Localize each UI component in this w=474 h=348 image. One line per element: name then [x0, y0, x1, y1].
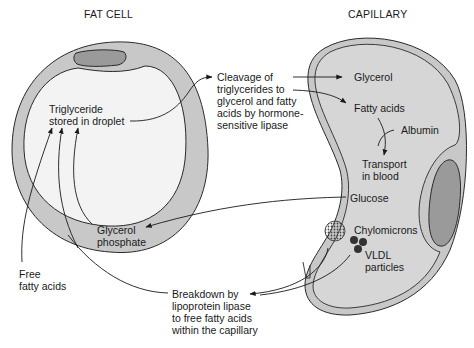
- chylomicrons-label: Chylomicrons: [354, 224, 418, 236]
- glycerol-label: Glycerol: [354, 71, 393, 83]
- cleavage-label: Cleavage of triglycerides to glycerol an…: [217, 71, 303, 131]
- albumin-label: Albumin: [401, 124, 439, 136]
- fat-cell-title: FAT CELL: [84, 8, 133, 20]
- transport-label: Transport in blood: [362, 158, 407, 182]
- breakdown-label: Breakdown by lipoprotein lipase to free …: [172, 288, 258, 336]
- free-fatty-acids-label: Free fatty acids: [19, 268, 66, 292]
- glycerol-phosphate-label: Glycerol phosphate: [97, 224, 146, 248]
- lipid-droplet: [24, 66, 186, 226]
- fat-cell-nucleus: [74, 50, 126, 67]
- fatty-acids-label: Fatty acids: [354, 102, 405, 114]
- vldl-label: VLDL particles: [365, 249, 404, 273]
- chylomicron-particle: [325, 221, 345, 241]
- fat-cell: [12, 42, 208, 253]
- diagram: FAT CELL CAPILLARY Triglyceride stored i…: [0, 0, 474, 348]
- capillary-title: CAPILLARY: [348, 8, 407, 20]
- triglyceride-label: Triglyceride stored in droplet: [49, 103, 124, 127]
- glucose-label: Glucose: [350, 192, 389, 204]
